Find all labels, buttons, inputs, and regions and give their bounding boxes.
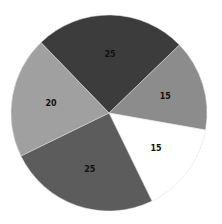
- slice-label: 20: [46, 99, 58, 108]
- slice-label: 25: [104, 50, 116, 59]
- slice-label: 15: [160, 92, 172, 101]
- pie-chart: 2515152520: [0, 0, 222, 224]
- slice-label: 25: [84, 165, 96, 174]
- slice-label: 15: [150, 144, 162, 153]
